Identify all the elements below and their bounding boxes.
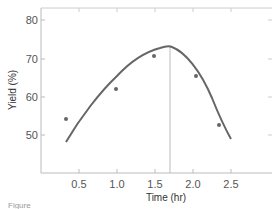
y-tick-label: 70: [26, 53, 38, 65]
x-axis-title: Time (hr): [146, 192, 186, 203]
x-tick-label: 2.5: [223, 178, 238, 190]
y-tick-label: 60: [26, 91, 38, 103]
data-point: [217, 123, 221, 127]
data-point: [194, 74, 198, 78]
data-point: [114, 87, 118, 91]
x-tick-label: 1.5: [147, 178, 162, 190]
data-point: [64, 117, 68, 121]
y-ticks: 80 70 60 50: [26, 14, 272, 141]
data-point: [152, 54, 156, 58]
x-tick-label: 0.5: [71, 178, 86, 190]
x-tick-label: 1.0: [109, 178, 124, 190]
figure-caption: Figure: [8, 201, 31, 209]
fitted-curve: [66, 46, 231, 142]
chart-svg: 80 70 60 50 0.5 1.0 1.5 2.0 2.5 Time (hr…: [0, 0, 272, 209]
x-tick-label: 2.0: [185, 178, 200, 190]
y-tick-label: 80: [26, 14, 38, 26]
data-points: [64, 54, 221, 127]
y-axis-title: Yield (%): [7, 70, 18, 110]
y-tick-label: 50: [26, 129, 38, 141]
